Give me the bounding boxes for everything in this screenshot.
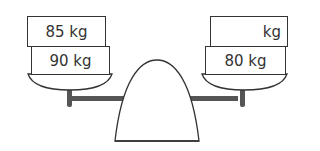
left-pan [28, 74, 112, 90]
left-stem [67, 89, 72, 107]
right-stem [240, 89, 245, 107]
weight-label: kg [263, 23, 281, 41]
right-pan [202, 74, 287, 90]
right-bottom-weight: 80 kg [205, 46, 286, 75]
weight-label: 85 kg [45, 23, 87, 41]
left-bottom-weight: 90 kg [31, 46, 110, 75]
right-top-weight-unknown: kg [210, 16, 288, 47]
weight-label: 80 kg [224, 52, 266, 70]
fulcrum [115, 60, 199, 141]
weight-label: 90 kg [49, 52, 91, 70]
left-top-weight: 85 kg [27, 16, 106, 47]
